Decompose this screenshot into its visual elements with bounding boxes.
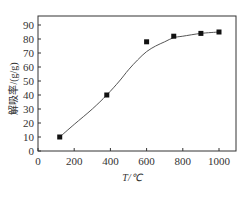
y-axis-title: 解吸率/(g/g)	[7, 62, 20, 114]
y-tick-label: 20	[23, 117, 35, 129]
data-point-marker	[57, 135, 62, 140]
x-tick-label: 400	[102, 155, 119, 167]
desorption-rate-chart: 0102030405060708090 02004006008001000 T/…	[0, 0, 250, 200]
x-axis-title: T/℃	[122, 172, 143, 183]
y-tick-label: 50	[23, 75, 35, 87]
y-tick-label: 0	[29, 145, 35, 157]
fit-curve	[60, 32, 219, 137]
data-point-marker	[198, 31, 203, 36]
x-tick-label: 1000	[208, 155, 231, 167]
data-point-marker	[217, 30, 222, 35]
data-point-marker	[104, 93, 109, 98]
data-markers	[57, 30, 221, 140]
data-point-marker	[171, 34, 176, 39]
y-tick-label: 40	[23, 89, 35, 101]
y-tick-label: 10	[23, 131, 35, 143]
y-tick-label: 70	[23, 47, 35, 59]
y-tick-label: 30	[23, 103, 35, 115]
x-tick-label: 200	[66, 155, 83, 167]
x-tick-label: 600	[138, 155, 155, 167]
x-tick-label: 0	[35, 155, 41, 167]
data-point-marker	[144, 39, 149, 44]
x-tick-label: 800	[175, 155, 192, 167]
y-tick-label: 60	[23, 61, 35, 73]
y-tick-label: 80	[23, 33, 35, 45]
y-tick-label: 90	[23, 19, 35, 31]
plot-frame	[38, 16, 236, 151]
